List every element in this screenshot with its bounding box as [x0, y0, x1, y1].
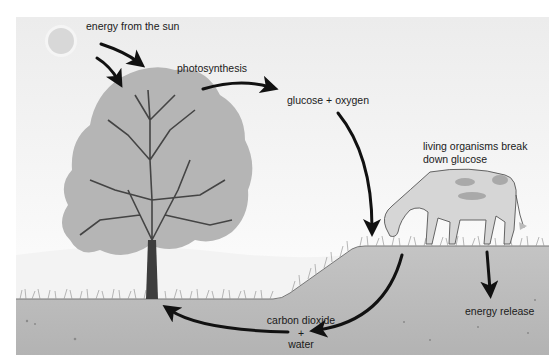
sun-icon — [45, 25, 77, 57]
label-co2-line2: water — [265, 338, 337, 350]
label-glucose-oxygen: glucose + oxygen — [287, 94, 369, 106]
cycle-diagram: energy from the sun photosynthesis gluco… — [0, 0, 555, 363]
label-organisms-line1: living organisms break — [423, 140, 527, 152]
label-co2-line1: carbon dioxide — [265, 314, 337, 326]
label-energy-release: energy release — [465, 305, 534, 317]
label-energy-from-sun: energy from the sun — [86, 20, 179, 32]
label-organisms-line2: down glucose — [423, 153, 487, 165]
label-photosynthesis: photosynthesis — [177, 62, 247, 74]
